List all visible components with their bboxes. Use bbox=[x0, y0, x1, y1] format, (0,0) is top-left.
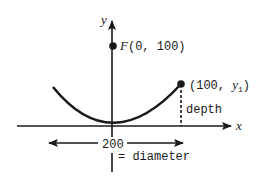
x-axis-label: x bbox=[235, 118, 242, 133]
endpoint bbox=[177, 80, 185, 88]
focus-label: F(0, 100) bbox=[119, 38, 186, 54]
parabola-curve bbox=[53, 84, 181, 123]
focus-point bbox=[109, 42, 117, 50]
diameter-label: = diameter bbox=[118, 150, 190, 164]
y-axis-label: y bbox=[99, 12, 107, 27]
endpoint-label: (100, y1) bbox=[189, 77, 250, 94]
parabola-diagram: x y F(0, 100) (100, y1) depth 200 = diam… bbox=[0, 0, 270, 187]
depth-label: depth bbox=[186, 103, 222, 117]
